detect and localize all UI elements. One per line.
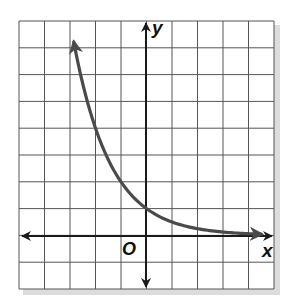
y-axis-label: y (152, 18, 163, 37)
graph-canvas (0, 0, 292, 308)
origin-label: O (122, 240, 136, 258)
x-axis-label: x (262, 241, 273, 260)
